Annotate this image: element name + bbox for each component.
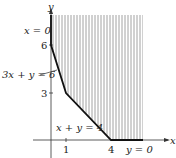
y-tick-label-6: 6: [41, 40, 47, 51]
constraint-label-x-plus-y-eq-4: x + y = 4: [56, 122, 103, 133]
constraint-label-y-eq-0: y = 0: [125, 144, 153, 155]
x-axis-label: x: [170, 135, 176, 146]
y-tick-label-3: 3: [41, 88, 47, 99]
x-tick-label-4: 4: [108, 144, 114, 155]
y-axis-label: y: [47, 1, 54, 12]
feasible-region-figure: y x 6 3 1 4 x = 0 3x + y = 6 x + y = 4 y…: [0, 0, 176, 158]
x-tick-label-1: 1: [63, 144, 69, 155]
constraint-label-x-eq-0: x = 0: [24, 25, 51, 36]
constraint-label-3x-plus-y-eq-6: 3x + y = 6: [2, 69, 56, 80]
